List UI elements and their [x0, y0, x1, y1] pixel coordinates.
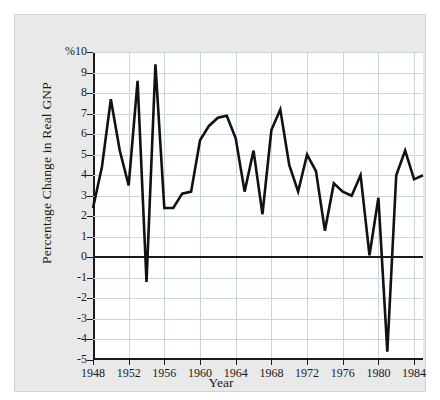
y-axis-tick-label: 5 — [51, 147, 87, 162]
y-axis-tick-label: 2 — [51, 208, 87, 223]
x-axis-tick — [93, 360, 94, 365]
y-axis-tick-label: -5 — [51, 352, 87, 367]
y-axis-tick-label: 7 — [51, 106, 87, 121]
y-axis-tick-label: -3 — [51, 311, 87, 326]
x-axis-tick — [378, 360, 379, 365]
x-axis-tick — [307, 360, 308, 365]
y-axis-tick-label: 3 — [51, 188, 87, 203]
x-axis-tick — [129, 360, 130, 365]
x-axis-tick — [200, 360, 201, 365]
x-axis-tick — [236, 360, 237, 365]
y-axis-tick-label: 6 — [51, 126, 87, 141]
y-axis-tick-label: 8 — [51, 85, 87, 100]
y-axis-tick-label: -2 — [51, 290, 87, 305]
x-axis-tick — [414, 360, 415, 365]
y-axis-tick-label: 9 — [51, 65, 87, 80]
figure-container: Percentage Change in Real GNP Year %1098… — [14, 14, 426, 392]
y-axis-tick-label: 4 — [51, 167, 87, 182]
x-axis-tick — [343, 360, 344, 365]
x-axis-tick — [164, 360, 165, 365]
plot-area: %109876543210-1-2-3-4-5 1948195219561960… — [79, 38, 424, 361]
x-axis-tick-label: 1984 — [392, 366, 436, 381]
x-axis-tick — [271, 360, 272, 365]
gnp-line-series — [93, 52, 423, 360]
gnp-polyline — [93, 64, 423, 351]
y-axis-tick-label: 1 — [51, 229, 87, 244]
y-axis-tick-label: 0 — [51, 249, 87, 264]
figure-caption-strip — [0, 0, 440, 13]
y-axis-tick-label: -4 — [51, 331, 87, 346]
y-axis-tick-label: %10 — [51, 44, 87, 59]
plot-canvas — [93, 52, 423, 360]
y-axis-tick-label: -1 — [51, 270, 87, 285]
